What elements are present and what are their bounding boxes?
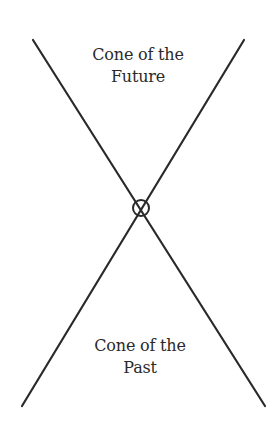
- future-cone-label-line2: Future: [58, 66, 218, 88]
- future-cone-label-line1: Cone of the: [58, 44, 218, 66]
- past-cone-label-line1: Cone of the: [60, 335, 220, 357]
- future-cone-label: Cone of the Future: [58, 44, 218, 88]
- past-cone-label-line2: Past: [60, 357, 220, 379]
- past-cone-label: Cone of the Past: [60, 335, 220, 379]
